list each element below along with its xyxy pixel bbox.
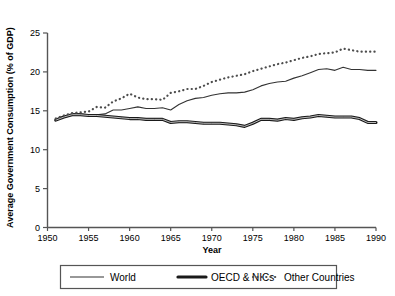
x-tick-label: 1985	[325, 233, 345, 243]
y-tick-label: 15	[30, 106, 40, 116]
x-tick-label: 1990	[366, 233, 386, 243]
x-tick-label: 1950	[37, 233, 57, 243]
x-tick-label: 1980	[284, 233, 304, 243]
y-axis-title: Average Government Consumption (% of GDP…	[5, 27, 15, 228]
legend-items: WorldOECD & NICsOther Countries	[70, 272, 355, 283]
x-axis-title: Year	[202, 245, 222, 255]
y-axis-ticks: 0510152025	[30, 28, 48, 233]
x-tick-label: 1975	[243, 233, 263, 243]
line-chart: Average Government Consumption (% of GDP…	[0, 0, 395, 296]
y-tick-label: 5	[35, 184, 40, 194]
legend-label: World	[110, 272, 136, 283]
chart-legend: WorldOECD & NICsOther Countries	[61, 266, 355, 289]
legend-label: OECD & NICs	[211, 272, 274, 283]
x-tick-label: 1955	[79, 233, 99, 243]
series-line	[56, 49, 376, 119]
y-tick-label: 10	[30, 145, 40, 155]
chart-figure: Average Government Consumption (% of GDP…	[0, 0, 395, 296]
series-line	[56, 67, 376, 119]
data-series-group	[56, 49, 376, 127]
x-tick-label: 1965	[161, 233, 181, 243]
y-tick-label: 0	[35, 223, 40, 233]
x-tick-label: 1970	[202, 233, 222, 243]
y-tick-label: 25	[30, 28, 40, 38]
y-tick-label: 20	[30, 67, 40, 77]
legend-label: Other Countries	[284, 272, 355, 283]
x-tick-label: 1960	[120, 233, 140, 243]
x-axis-ticks: 195019551960196519701975198019851990	[37, 228, 386, 244]
